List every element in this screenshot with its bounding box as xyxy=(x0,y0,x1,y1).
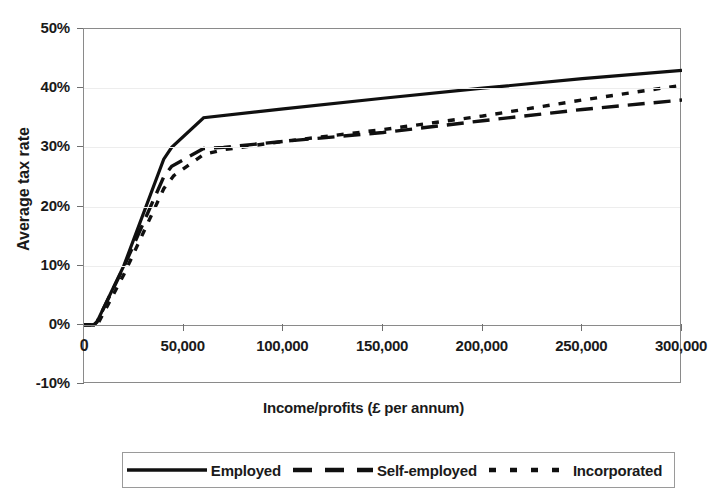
legend-label: Employed xyxy=(209,462,291,479)
y-tick-label: 0% xyxy=(14,315,70,332)
legend-entry[interactable]: Self-employed xyxy=(291,462,487,479)
gridline xyxy=(84,88,680,89)
x-tick-mark xyxy=(382,324,383,331)
x-tick-mark xyxy=(581,324,582,331)
x-tick-label: 0 xyxy=(80,337,89,355)
x-tick-mark xyxy=(282,324,283,331)
x-tick-label: 50,000 xyxy=(161,337,205,354)
legend-label: Incorporated xyxy=(571,462,672,479)
x-tick-mark xyxy=(482,324,483,331)
y-tick-label: 50% xyxy=(14,19,70,36)
gridline xyxy=(84,266,680,267)
series-line-self-employed xyxy=(84,100,682,325)
legend-swatch-solid xyxy=(125,464,209,476)
x-tick-label: 200,000 xyxy=(456,337,508,354)
legend-entry[interactable]: Incorporated xyxy=(487,462,672,479)
gridline xyxy=(84,207,680,208)
x-axis-title: Income/profits (£ per annum) xyxy=(0,399,727,416)
x-tick-label: 300,000 xyxy=(655,337,707,354)
y-tick-label: -10% xyxy=(14,374,70,391)
x-tick-label: 100,000 xyxy=(256,337,308,354)
chart-container: Average tax rate -10%0%10%20%30%40%50% 0… xyxy=(0,0,727,502)
y-tick-label: 20% xyxy=(14,197,70,214)
x-tick-label: 250,000 xyxy=(555,337,607,354)
series-line-incorporated xyxy=(84,85,682,325)
legend-swatch-dashed xyxy=(291,464,375,476)
gridline xyxy=(84,147,680,148)
legend-swatch-dotted xyxy=(487,464,571,476)
legend-label: Self-employed xyxy=(375,462,487,479)
x-tick-mark xyxy=(183,324,184,331)
y-tick-mark xyxy=(77,383,84,384)
y-tick-label: 10% xyxy=(14,256,70,273)
chart-legend: EmployedSelf-employedIncorporated xyxy=(122,452,675,488)
x-tick-mark xyxy=(681,324,682,331)
y-tick-label: 30% xyxy=(14,137,70,154)
y-tick-label: 40% xyxy=(14,78,70,95)
x-tick-label: 150,000 xyxy=(356,337,408,354)
legend-entry[interactable]: Employed xyxy=(125,462,291,479)
